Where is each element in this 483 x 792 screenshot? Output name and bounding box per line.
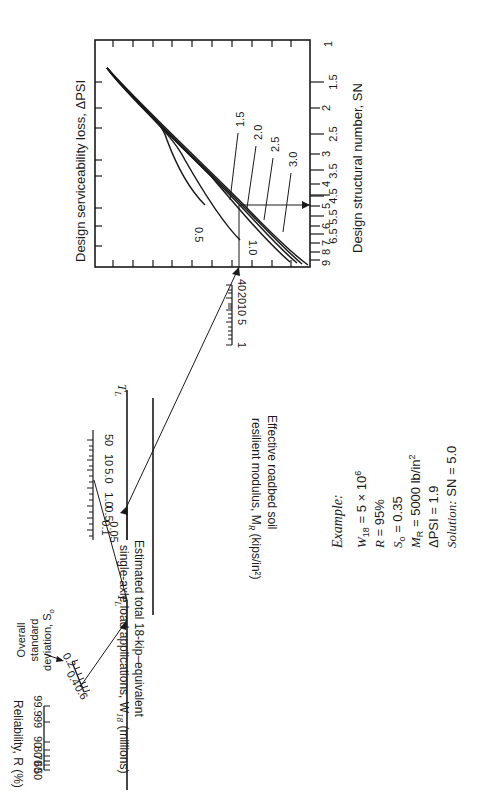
sn-tick-1: 1	[322, 41, 334, 47]
curve-label-3-0: 3.0	[287, 152, 299, 167]
std-dev-label: Overall standard deviation, So	[15, 608, 64, 670]
example-line-psi: ΔPSI = 1.9	[426, 485, 441, 548]
sn-scale: 1 1.5 2 2.5 3 3.5 4 4.5 5 5.5 6 6.5 7 8 …	[310, 41, 365, 266]
psi-chart: 0.5 1.0 1.5 2.0 2.5 3.0 Design serviceab…	[73, 40, 310, 267]
curve-label-2-0: 2.0	[252, 125, 264, 140]
mr-tick-20: 20	[236, 292, 248, 304]
curve-1-0	[107, 68, 240, 240]
r-tick-99: 99	[32, 716, 44, 728]
sn-tick-5-5: 5.5	[327, 209, 339, 224]
sn-tick-7: 7	[320, 240, 332, 246]
mr-label-line1: Effective roadbed soil	[265, 415, 279, 530]
w18-label-line1: Estimated total 18-kip–equivalent	[132, 540, 146, 717]
psi-left-ticks	[95, 82, 102, 246]
mr-tick-1: 1	[236, 342, 248, 348]
so-tick-0-2: 0.2	[60, 650, 78, 669]
sn-tick-8: 8	[320, 249, 332, 255]
example-block: Example: W18 = 5 × 106 R = 95% So = 0.35…	[330, 446, 459, 549]
svg-text:deviation, So: deviation, So	[41, 608, 56, 670]
nomograph: 0.5 1.0 1.5 2.0 2.5 3.0 Design serviceab…	[0, 0, 483, 792]
sn-tick-9: 9	[320, 260, 332, 266]
mr-tick-10: 10	[236, 304, 248, 316]
example-line-w18: W18 = 5 × 106	[353, 471, 371, 548]
w18-tick-0-05: 0.05	[108, 521, 120, 542]
sn-tick-2-5: 2.5	[327, 126, 339, 141]
w18-tick-5: 5.0	[103, 468, 115, 483]
sn-tick-4: 4	[320, 181, 332, 187]
mr-tick-5: 5	[236, 319, 248, 325]
example-line-mr: MR = 5000 lb/in2	[407, 454, 425, 549]
curve-0-5	[107, 68, 205, 205]
sn-tick-1-5: 1.5	[327, 74, 339, 89]
curve-label-1-0: 1.0	[247, 240, 259, 255]
std-dev-scale: 0.2 0.4 0.6	[60, 650, 90, 701]
w18-label-line2: single-axle load applications, W18 (mill…	[115, 545, 131, 773]
w18-tick-1: 1.0	[103, 492, 115, 507]
w18-tick-50: 50	[103, 434, 115, 446]
mr-label-line2: resilient modulus, MR (kips/in²)	[247, 418, 263, 580]
curve-3-0	[107, 68, 308, 265]
r-tick-50: 50	[32, 768, 44, 780]
svg-text:standard: standard	[28, 619, 40, 662]
example-line-r: R = 95%	[372, 499, 387, 549]
sn-tick-3-5: 3.5	[327, 163, 339, 178]
psi-curves	[107, 68, 308, 265]
sn-tick-5: 5	[320, 203, 332, 209]
example-title: Example:	[330, 494, 345, 549]
sn-label: Design structural number, SN	[350, 83, 365, 253]
psi-bottom-ticks	[113, 260, 291, 267]
arrow-to-w18-icon	[120, 506, 128, 515]
sn-tick-6: 6	[320, 223, 332, 229]
sn-tick-2: 2	[320, 105, 332, 111]
mr-tick-40: 40	[236, 279, 248, 291]
psi-top-ticks	[113, 40, 291, 47]
reliability-scale: 99.9 99 90 80 70 60 50 Reliability, R (%…	[11, 695, 50, 788]
mr-scale: 40 20 10 5 1 Effective roadbed soil resi…	[226, 279, 279, 580]
arrow-to-sn-icon	[302, 201, 310, 209]
sn-tick-3: 3	[320, 151, 332, 157]
sn-tick-4-5: 4.5	[327, 188, 339, 203]
example-solution: Solution: SN = 5.0	[444, 446, 459, 548]
svg-text:Overall: Overall	[15, 623, 27, 658]
w18-tick-10: 10	[103, 454, 115, 466]
curve-label-2-5: 2.5	[269, 137, 281, 152]
psi-ylabel: Design serviceability loss, ΔPSI	[73, 80, 88, 262]
r-tick-99-9: 99.9	[32, 695, 44, 716]
reliability-label: Reliability, R (%)	[11, 700, 25, 788]
arrow-to-chart-icon	[232, 267, 240, 276]
example-line-so: So = 0.35	[390, 496, 407, 548]
curve-label-1-5: 1.5	[234, 112, 246, 127]
curve-label-0-5: 0.5	[193, 227, 205, 242]
